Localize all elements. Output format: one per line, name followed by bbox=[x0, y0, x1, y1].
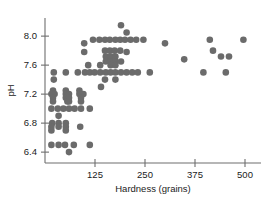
data-point bbox=[102, 76, 109, 83]
data-point bbox=[112, 76, 119, 83]
y-tick-label: 7.6 bbox=[24, 59, 37, 70]
data-point bbox=[71, 105, 78, 112]
y-tick-label: 6.4 bbox=[24, 146, 37, 157]
data-point bbox=[78, 105, 85, 112]
data-point bbox=[133, 36, 140, 43]
data-point bbox=[81, 40, 88, 47]
data-point bbox=[200, 69, 207, 76]
data-point bbox=[117, 47, 124, 54]
data-point bbox=[123, 49, 130, 56]
data-point bbox=[118, 58, 125, 65]
data-point bbox=[87, 142, 94, 149]
data-point bbox=[55, 113, 62, 120]
x-axis-title: Hardness (grains) bbox=[115, 183, 191, 194]
data-point bbox=[55, 123, 62, 130]
data-point bbox=[51, 76, 58, 83]
y-tick-label: 8.0 bbox=[24, 30, 37, 41]
y-axis-title: pH bbox=[5, 84, 16, 96]
chart-canvas: 6.46.87.27.68.0125250375500Hardness (gra… bbox=[0, 0, 265, 203]
data-point bbox=[123, 29, 130, 36]
data-point bbox=[207, 36, 214, 43]
data-point bbox=[98, 84, 105, 91]
data-point bbox=[97, 62, 104, 69]
data-point bbox=[71, 142, 78, 149]
scatter-plot-figure: 6.46.87.27.68.0125250375500Hardness (gra… bbox=[0, 0, 265, 203]
data-point bbox=[66, 149, 73, 156]
data-point bbox=[140, 36, 147, 43]
data-point bbox=[85, 62, 92, 69]
y-tick-label: 7.2 bbox=[24, 88, 37, 99]
x-tick-label: 250 bbox=[137, 169, 153, 180]
data-point bbox=[48, 127, 55, 134]
data-point bbox=[147, 69, 154, 76]
data-point bbox=[226, 53, 233, 60]
data-point bbox=[223, 69, 230, 76]
data-point bbox=[87, 105, 94, 112]
data-point bbox=[48, 105, 55, 112]
data-point bbox=[51, 69, 58, 76]
data-point bbox=[48, 142, 55, 149]
data-point bbox=[218, 53, 225, 60]
x-tick-label: 125 bbox=[87, 169, 103, 180]
data-point bbox=[66, 98, 73, 105]
data-point bbox=[181, 56, 188, 63]
data-point bbox=[50, 98, 57, 105]
data-point bbox=[63, 69, 70, 76]
x-tick-label: 375 bbox=[187, 169, 203, 180]
data-point bbox=[90, 36, 97, 43]
y-tick-label: 6.8 bbox=[24, 117, 37, 128]
data-point bbox=[210, 47, 217, 54]
x-tick-label: 500 bbox=[237, 169, 253, 180]
data-point bbox=[240, 36, 247, 43]
data-point bbox=[75, 69, 82, 76]
data-point bbox=[63, 127, 70, 134]
data-point bbox=[62, 142, 69, 149]
data-point bbox=[55, 142, 62, 149]
data-point bbox=[77, 123, 84, 130]
data-point bbox=[78, 98, 85, 105]
data-point bbox=[112, 62, 119, 69]
data-point bbox=[135, 69, 142, 76]
data-point bbox=[118, 22, 125, 29]
data-point bbox=[162, 40, 169, 47]
data-point bbox=[81, 49, 88, 56]
